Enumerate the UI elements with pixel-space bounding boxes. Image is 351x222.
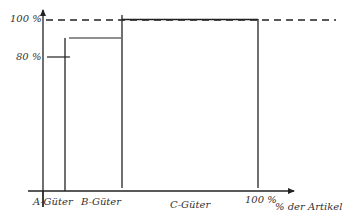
category-label-b: B-Güter [81, 197, 121, 207]
category-label-a: A-Güter [33, 197, 73, 207]
y-tick-label-100: 100 % [10, 14, 42, 24]
x-tick-label-100: 100 % [245, 195, 277, 205]
abc-analysis-chart [0, 0, 351, 222]
x-axis-label: % der Artikel [275, 202, 342, 212]
category-label-c: C-Güter [170, 200, 210, 210]
y-tick-label-80: 80 % [16, 52, 41, 62]
